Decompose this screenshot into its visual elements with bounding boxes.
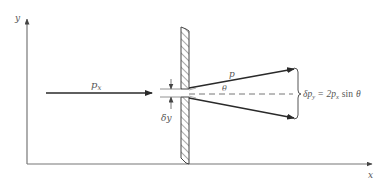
uncertainty-equation: δpy=2pxsinθ bbox=[303, 89, 361, 100]
y-axis-label: y bbox=[14, 13, 21, 23]
wall-lower bbox=[181, 97, 189, 164]
diffracted-momentum-label: p bbox=[229, 69, 235, 79]
lower-ray-arrow bbox=[189, 98, 294, 118]
curly-brace-icon bbox=[294, 68, 301, 119]
angle-label: θ bbox=[222, 84, 227, 93]
diffracted-rays bbox=[189, 69, 294, 118]
upper-ray-arrow bbox=[189, 69, 294, 88]
slit-diffraction-diagram: y x px δy p θ δpy=2pxsinθ bbox=[0, 0, 391, 183]
incident-momentum-label: px bbox=[91, 79, 101, 92]
wall-upper bbox=[181, 27, 189, 89]
x-axis-label: x bbox=[368, 170, 373, 180]
diagram-svg: y x px δy p θ δpy=2pxsinθ bbox=[0, 0, 391, 183]
slit-width-indicator bbox=[160, 79, 181, 109]
slit-wall bbox=[181, 27, 189, 164]
slit-width-label: δy bbox=[161, 113, 172, 123]
